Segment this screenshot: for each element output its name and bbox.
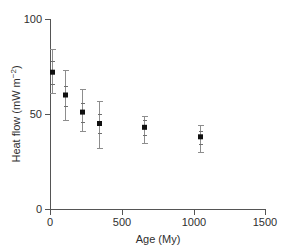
- data-point-marker: [97, 121, 102, 126]
- data-point-group: [97, 101, 103, 149]
- data-point-group: [80, 89, 86, 131]
- y-tick-label-100: 100: [24, 13, 42, 25]
- x-axis-title: Age (My): [136, 233, 181, 245]
- y-axis-tick-labels: 100 50 0: [24, 13, 42, 215]
- y-axis-ticks: [45, 20, 51, 210]
- data-point-marker: [50, 70, 55, 75]
- data-point-group: [63, 70, 69, 120]
- data-point-marker: [198, 134, 203, 139]
- scatter-plot-canvas: 100 50 0 0 500 1000 1500 Age (My) Heat f…: [0, 0, 288, 252]
- x-axis-ticks: [51, 210, 266, 216]
- x-axis-tick-labels: 0 500 1000 1500: [47, 216, 277, 228]
- data-series-group: [50, 49, 204, 152]
- y-tick-label-50: 50: [30, 108, 42, 120]
- x-tick-label-500: 500: [113, 216, 131, 228]
- y-axis-title: Heat flow (mW m−2): [9, 65, 22, 162]
- svg-text:Heat flow (mW m−2): Heat flow (mW m−2): [9, 65, 22, 162]
- data-point-marker: [142, 125, 147, 130]
- x-tick-label-1000: 1000: [182, 216, 206, 228]
- data-point-group: [198, 125, 204, 152]
- x-tick-label-1500: 1500: [253, 216, 277, 228]
- y-axis-title-close: ): [10, 65, 22, 69]
- data-point-marker: [63, 93, 68, 98]
- data-point-marker: [80, 110, 85, 115]
- y-axis-title-main: Heat flow (mW m: [10, 78, 22, 162]
- data-point-group: [142, 116, 148, 144]
- y-tick-label-0: 0: [36, 203, 42, 215]
- chart-figure: 100 50 0 0 500 1000 1500 Age (My) Heat f…: [0, 0, 288, 252]
- x-tick-label-0: 0: [47, 216, 53, 228]
